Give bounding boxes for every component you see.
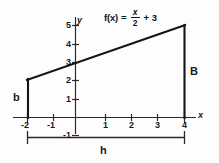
function-formula: f(x) = x 2 + 3 [104, 8, 157, 28]
y-axis-label: y [77, 16, 82, 25]
formula-fraction: x 2 [131, 8, 140, 28]
x-tick-label--1: -1 [47, 121, 55, 130]
formula-numerator: x [133, 8, 138, 17]
base-label-h: h [100, 145, 107, 156]
x-axis-label: x [198, 111, 203, 120]
x-tick-label-3: 3 [155, 121, 160, 130]
y-tick-label-4: 4 [66, 40, 71, 49]
formula-denominator: 2 [133, 18, 138, 27]
formula-addend: + 3 [144, 13, 157, 23]
y-tick-label-1: 1 [66, 95, 71, 104]
x-tick-label-1: 1 [103, 121, 108, 130]
side-label-b: b [13, 92, 20, 103]
y-tick-label--1: -1 [63, 131, 71, 140]
function-line [27, 25, 185, 80]
trapezoid-function-figure: f(x) = x 2 + 3 y x -2 -1 1 2 3 4 5 4 3 2… [0, 0, 219, 163]
x-tick-label-4: 4 [182, 121, 187, 130]
formula-equals: = [121, 13, 127, 23]
y-tick-label-3: 3 [66, 58, 71, 67]
y-tick-label-2: 2 [66, 76, 71, 85]
formula-function-name: f(x) [104, 13, 118, 23]
side-label-B: B [190, 66, 198, 77]
base-dimension-bracket-h [28, 131, 185, 144]
y-tick-label-5: 5 [66, 21, 71, 30]
x-tick-label--2: -2 [21, 121, 29, 130]
x-tick-label-2: 2 [129, 121, 134, 130]
